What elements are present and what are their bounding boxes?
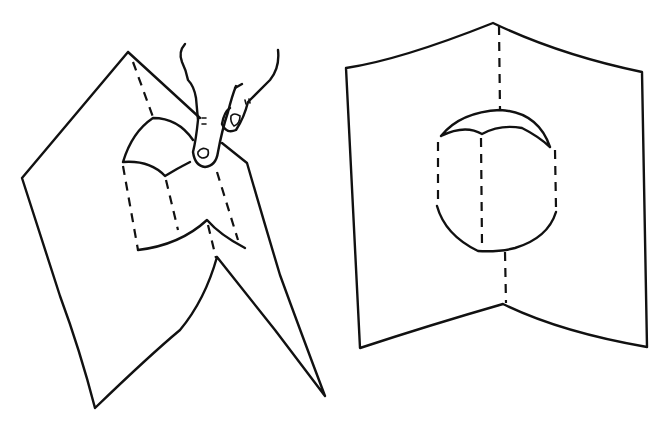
cut-out-bottom <box>138 220 245 250</box>
pop-up-fold-right <box>555 150 556 208</box>
cut-out-side-middle <box>166 180 178 230</box>
left-panel <box>22 44 325 408</box>
center-fold-line-bottom <box>505 252 506 303</box>
open-card-outline <box>346 23 647 348</box>
fold-line-top <box>133 62 153 117</box>
cut-out-side-right <box>217 172 238 240</box>
pop-up-shape-bottom <box>437 206 556 251</box>
right-panel <box>346 23 647 348</box>
fold-line-bottom <box>208 225 216 258</box>
folded-card-outline <box>22 52 325 408</box>
cut-out-top <box>123 118 193 176</box>
cut-out-side-left <box>123 166 138 250</box>
illustration-canvas: Pushing the cut-out section through the … <box>0 0 652 421</box>
pop-up-shape-top <box>441 110 550 147</box>
center-fold-line-top <box>499 26 500 110</box>
pop-up-fold-middle <box>481 138 482 245</box>
